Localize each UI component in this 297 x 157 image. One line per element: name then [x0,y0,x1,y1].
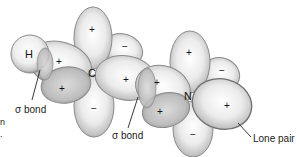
label-lone-pair: Lone pair [253,133,295,144]
sign-n-top: + [186,47,192,58]
sign-n-left: + [154,77,160,88]
atom-n: N [184,90,192,102]
h-c-overlap [37,48,53,80]
label-sigma-bond-2: σ bond [112,130,143,141]
sign-c-bottom: − [91,103,97,114]
sign-c-lower-left: + [59,83,65,94]
sign-n-upper-right: − [219,65,225,76]
leader-sigma-bond-2 [128,97,138,128]
atom-h: H [25,48,33,60]
leader-lone-pair [238,123,251,137]
sign-n-bottom: − [190,129,196,140]
sign-c-top: + [89,24,95,35]
sign-n-right: + [224,100,230,111]
edge-fragment-1: n [0,117,5,127]
sign-c-upper-right: − [122,41,128,52]
c-n-overlap [138,68,156,108]
edge-fragment-2: . [0,129,3,139]
label-sigma-bond-1: σ bond [15,104,46,115]
orbital-diagram: H C N + + − + + − + + − + + − σ bond σ b… [0,0,297,157]
sign-n-lower-left: + [157,106,163,117]
sign-c-right: + [123,74,129,85]
sign-h-c-bond: + [56,56,62,67]
atom-c: C [88,67,96,79]
